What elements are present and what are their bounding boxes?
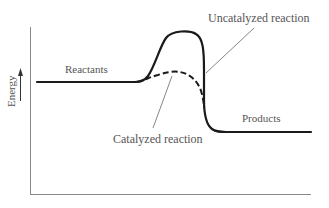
energy-diagram: Reactants Products Uncatalyzed reaction … [0, 0, 329, 208]
catalyzed-reaction-label: Catalyzed reaction [113, 133, 203, 145]
catalyzed-pointer [153, 76, 172, 128]
reactants-label: Reactants [65, 64, 108, 75]
uncatalyzed-pointer [206, 28, 254, 73]
products-label: Products [242, 113, 281, 124]
energy-arrow-icon [18, 68, 23, 101]
diagram-canvas [0, 0, 329, 208]
uncatalyzed-reaction-label: Uncatalyzed reaction [208, 12, 310, 24]
energy-axis-label: Energy [6, 75, 17, 107]
